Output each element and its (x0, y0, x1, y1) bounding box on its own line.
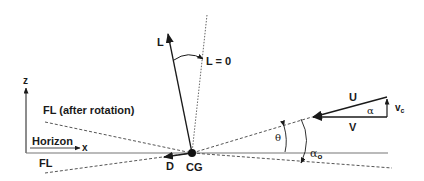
drag-label: D (166, 160, 174, 172)
fl-label: FL (39, 157, 53, 169)
fl-after-rotation-line-right (192, 117, 312, 153)
theta-label: θ (275, 132, 281, 143)
zero-lift-line (192, 15, 207, 153)
horizon-label: Horizon (32, 135, 73, 147)
alpha-o-arc (301, 119, 307, 163)
flight-mechanics-diagram: z Horizon x FL (after rotation) FL L = 0… (0, 0, 424, 181)
cg-label: CG (186, 161, 203, 173)
lift-angle-arc (174, 55, 203, 60)
zero-lift-label: L = 0 (206, 55, 231, 67)
theta-arc (284, 126, 286, 152)
cg-point (188, 149, 196, 157)
v-label: V (349, 121, 357, 133)
z-axis-label: z (23, 75, 28, 86)
alpha-o-label: αo (310, 147, 322, 161)
lift-vector (168, 34, 192, 153)
lift-label: L (157, 36, 164, 48)
x-axis-label: x (82, 142, 88, 153)
alpha-label: α (367, 105, 374, 116)
fl-after-rotation-label: FL (after rotation) (43, 104, 135, 116)
drag-vector (164, 153, 192, 157)
fl-line-right (192, 153, 392, 168)
vc-label: vc (395, 102, 405, 114)
u-label: U (349, 91, 357, 103)
